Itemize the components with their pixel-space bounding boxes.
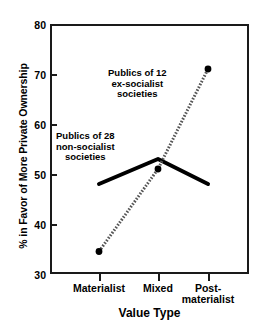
annotation-ex-socialist-line1: Publics of 12 bbox=[108, 67, 167, 78]
annotation-non-socialist-line1: Publics of 28 bbox=[56, 130, 115, 141]
x-tick-label-postmaterialist-line2: materialist bbox=[182, 293, 235, 305]
annotation-ex-socialist-line2: ex-socialist bbox=[111, 78, 163, 89]
x-tick-label-postmaterialist: Post- materialist bbox=[168, 283, 248, 305]
annotation-non-socialist: Publics of 28 non-socialist societies bbox=[56, 131, 115, 163]
x-axis-title: Value Type bbox=[50, 306, 249, 320]
y-tick-mark-50 bbox=[50, 174, 57, 176]
annotation-ex-socialist: Publics of 12 ex-socialist societies bbox=[108, 68, 167, 100]
y-tick-label-50: 50 bbox=[24, 169, 46, 181]
x-tick-mark-mixed bbox=[158, 274, 160, 281]
y-tick-label-80: 80 bbox=[24, 19, 46, 31]
x-tick-mark-postmaterialist bbox=[208, 274, 210, 281]
annotation-non-socialist-line2: non-socialist bbox=[56, 141, 115, 152]
chart-figure: % in Favor of More Private Ownership 80 … bbox=[0, 0, 269, 327]
annotation-ex-socialist-line3: societies bbox=[117, 88, 158, 99]
y-tick-label-40: 40 bbox=[24, 219, 46, 231]
y-tick-label-60: 60 bbox=[24, 119, 46, 131]
annotation-non-socialist-line3: societies bbox=[65, 151, 106, 162]
y-tick-mark-40 bbox=[50, 224, 57, 226]
y-axis-title: % in Favor of More Private Ownership bbox=[17, 26, 29, 286]
y-tick-label-30: 30 bbox=[24, 269, 46, 281]
y-tick-label-70: 70 bbox=[24, 69, 46, 81]
x-tick-label-materialist: Materialist bbox=[59, 283, 139, 294]
x-tick-mark-materialist bbox=[99, 274, 101, 281]
y-tick-mark-70 bbox=[50, 74, 57, 76]
y-tick-mark-60 bbox=[50, 124, 57, 126]
